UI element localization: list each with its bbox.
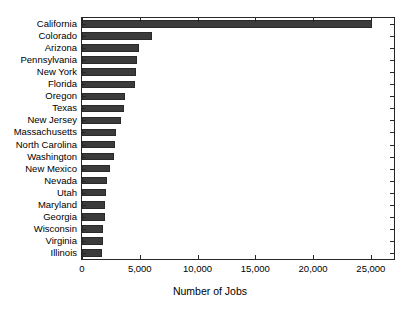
y-tick-left xyxy=(82,60,86,61)
y-axis-label: Texas xyxy=(52,103,77,113)
x-tick-top xyxy=(313,18,314,22)
x-tick-bottom xyxy=(255,255,256,259)
y-tick-left xyxy=(82,96,86,97)
tick-marks-container xyxy=(82,18,394,259)
x-tick-label: 15,000 xyxy=(241,263,270,274)
y-tick-right xyxy=(390,169,394,170)
y-axis-label: Colorado xyxy=(38,31,77,41)
y-axis-label: Virginia xyxy=(45,236,77,246)
y-tick-left xyxy=(82,24,86,25)
y-axis-label: Utah xyxy=(57,188,77,198)
y-axis-label: Arizona xyxy=(45,43,77,53)
y-axis-label: Illinois xyxy=(51,248,77,258)
y-tick-right xyxy=(390,60,394,61)
y-tick-left xyxy=(82,229,86,230)
y-tick-right xyxy=(390,72,394,73)
y-axis-label: Maryland xyxy=(38,200,77,210)
y-tick-right xyxy=(390,157,394,158)
x-tick-bottom xyxy=(140,255,141,259)
y-axis-label: Nevada xyxy=(44,176,77,186)
y-tick-left xyxy=(82,145,86,146)
x-axis-title: Number of Jobs xyxy=(0,285,420,297)
y-tick-left xyxy=(82,84,86,85)
y-tick-left xyxy=(82,205,86,206)
y-tick-right xyxy=(390,193,394,194)
y-tick-right xyxy=(390,84,394,85)
y-tick-right xyxy=(390,108,394,109)
y-axis-label: Washington xyxy=(27,152,77,162)
x-tick-label: 20,000 xyxy=(299,263,328,274)
x-tick-top xyxy=(198,18,199,22)
bar-chart: CaliforniaColoradoArizonaPennsylvaniaNew… xyxy=(0,0,420,312)
y-axis-label: Wisconsin xyxy=(34,224,77,234)
y-axis-label: North Carolina xyxy=(16,140,77,150)
x-tick-label: 0 xyxy=(79,263,84,274)
x-tick-bottom xyxy=(82,255,83,259)
y-tick-left xyxy=(82,108,86,109)
y-tick-left xyxy=(82,241,86,242)
y-tick-right xyxy=(390,24,394,25)
y-tick-right xyxy=(390,96,394,97)
y-tick-right xyxy=(390,48,394,49)
y-tick-right xyxy=(390,132,394,133)
y-tick-left xyxy=(82,36,86,37)
y-tick-left xyxy=(82,217,86,218)
y-tick-right xyxy=(390,36,394,37)
y-tick-left xyxy=(82,181,86,182)
y-axis-label: Georgia xyxy=(43,212,77,222)
y-axis-label: New Jersey xyxy=(27,115,77,125)
y-axis-label: California xyxy=(37,19,77,29)
x-tick-top xyxy=(371,18,372,22)
x-tick-bottom xyxy=(313,255,314,259)
y-tick-right xyxy=(390,181,394,182)
y-tick-left xyxy=(82,120,86,121)
y-axis-label: Florida xyxy=(48,79,77,89)
y-tick-right xyxy=(390,217,394,218)
y-tick-right xyxy=(390,205,394,206)
plot-area xyxy=(81,17,395,260)
x-tick-label: 5,000 xyxy=(128,263,152,274)
x-tick-top xyxy=(255,18,256,22)
y-axis-label: New Mexico xyxy=(25,164,77,174)
x-tick-top xyxy=(140,18,141,22)
y-tick-left xyxy=(82,72,86,73)
y-axis-label: Pennsylvania xyxy=(20,55,77,65)
y-tick-left xyxy=(82,48,86,49)
x-tick-label: 10,000 xyxy=(183,263,212,274)
y-tick-left xyxy=(82,193,86,194)
y-tick-left xyxy=(82,132,86,133)
y-tick-left xyxy=(82,157,86,158)
y-tick-left xyxy=(82,169,86,170)
y-tick-right xyxy=(390,120,394,121)
y-tick-right xyxy=(390,229,394,230)
x-tick-label: 25,000 xyxy=(356,263,385,274)
y-tick-right xyxy=(390,241,394,242)
y-axis-category-labels: CaliforniaColoradoArizonaPennsylvaniaNew… xyxy=(0,17,77,260)
y-axis-label: Massachusetts xyxy=(14,127,77,137)
x-tick-bottom xyxy=(198,255,199,259)
y-tick-left xyxy=(82,253,86,254)
y-axis-label: New York xyxy=(37,67,77,77)
x-tick-top xyxy=(82,18,83,22)
y-tick-right xyxy=(390,253,394,254)
x-tick-bottom xyxy=(371,255,372,259)
y-axis-label: Oregon xyxy=(45,91,77,101)
y-tick-right xyxy=(390,145,394,146)
